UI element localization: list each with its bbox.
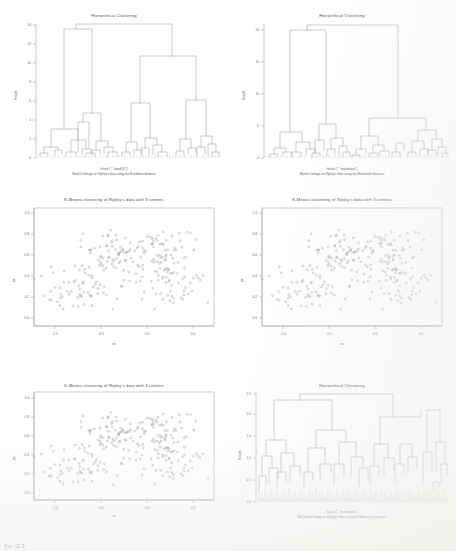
scatter-points (33, 229, 208, 310)
svg-text:8: 8 (29, 80, 31, 84)
svg-text:6: 6 (29, 99, 31, 103)
plot-caption-line2: McQuitty Linkage on Ripley's data using … (228, 515, 456, 519)
svg-text:0.4: 0.4 (25, 453, 30, 457)
svg-text:1.0: 1.0 (247, 456, 252, 460)
svg-text:15: 15 (255, 60, 259, 64)
svg-text:-0.5: -0.5 (98, 332, 104, 336)
scatter-points (261, 229, 436, 310)
svg-text:0.0: 0.0 (25, 316, 30, 320)
panel-kmeans-4: K-Means clustering of Ripley's data with… (0, 372, 228, 537)
dendrogram-leaves (266, 155, 446, 158)
svg-text:0.5: 0.5 (191, 332, 196, 336)
svg-text:0.5: 0.5 (247, 478, 252, 482)
svg-text:12: 12 (27, 42, 31, 46)
svg-text:0.8: 0.8 (25, 232, 30, 236)
plot-grid: Hierarchical Clustering Height 0 2 4 6 8… (0, 0, 456, 551)
dendrogram-tree (270, 25, 448, 157)
svg-text:10: 10 (27, 61, 31, 65)
y-axis: 0.0 0.2 0.4 0.6 0.8 1.0 (25, 392, 34, 500)
plot-caption-line2: Ward's Linkage on Ripley's data using th… (0, 172, 228, 176)
svg-text:-1.0: -1.0 (52, 332, 58, 336)
svg-text:0.0: 0.0 (145, 506, 150, 510)
y-axis: 0.0 0.2 0.4 0.6 0.8 1.0 (253, 208, 262, 326)
svg-text:0.6: 0.6 (25, 434, 30, 438)
svg-text:14: 14 (27, 23, 31, 27)
svg-text:4: 4 (29, 118, 31, 122)
x-axis: -1.0 -0.5 0.0 0.5 (34, 326, 214, 336)
svg-text:0: 0 (29, 156, 31, 160)
scatter-kmeans3-manhattan-svg: -1.0 -0.5 0.0 0.5 0.0 0.2 0.4 0.6 0.8 1.… (228, 186, 456, 372)
y-axis: 0.0 0.2 0.4 0.6 0.8 1.0 (25, 208, 34, 326)
svg-text:0.0: 0.0 (145, 332, 150, 336)
svg-text:0: 0 (257, 156, 259, 160)
svg-text:0.8: 0.8 (25, 415, 30, 419)
panel-kmeans-3-manhattan: K-Means clustering of Ripley's data with… (228, 186, 456, 372)
dendrogram-leaves (38, 155, 218, 158)
panel-kmeans-3-euclidean: K-Means clustering of Ripley's data with… (0, 186, 228, 372)
svg-text:1.5: 1.5 (247, 434, 252, 438)
svg-text:-1.0: -1.0 (52, 506, 58, 510)
svg-text:2.5: 2.5 (247, 392, 252, 396)
svg-text:0.2: 0.2 (25, 472, 30, 476)
svg-text:0.0: 0.0 (373, 332, 378, 336)
svg-text:0.6: 0.6 (253, 253, 258, 257)
svg-text:5: 5 (257, 124, 259, 128)
svg-text:2: 2 (29, 137, 31, 141)
svg-text:10: 10 (255, 92, 259, 96)
svg-text:0.4: 0.4 (25, 274, 30, 278)
dendrogram-midlevel (259, 488, 447, 502)
dendrogram-tree (40, 24, 219, 157)
x-axis: -1.0 -0.5 0.0 0.5 (262, 326, 442, 336)
svg-text:0.2: 0.2 (253, 295, 258, 299)
y-axis: 0 5 10 15 20 (255, 24, 264, 160)
svg-text:0.0: 0.0 (247, 500, 252, 504)
panel-dendro-manhattan: Hierarchical Clustering Height 0 5 10 15… (228, 0, 456, 186)
x-axis: -1.0 -0.5 0.0 0.5 (34, 500, 214, 510)
dendrogram-euclidean-svg: 0 2 4 6 8 10 12 14 (0, 0, 228, 186)
y-axis: 0.0 0.5 1.0 1.5 2.0 2.5 (247, 392, 256, 504)
svg-text:1.0: 1.0 (253, 211, 258, 215)
svg-text:0.5: 0.5 (191, 506, 196, 510)
dendrogram-tree (259, 394, 447, 490)
svg-text:-0.5: -0.5 (326, 332, 332, 336)
plot-caption-line2: Ward's Linkage on Ripley's data using th… (228, 172, 456, 176)
scatter-points (33, 412, 208, 486)
svg-text:0.8: 0.8 (253, 232, 258, 236)
svg-text:0.2: 0.2 (25, 295, 30, 299)
panel-dendro-mcquitty: Hierarchical Clustering Height 0.0 0.5 1… (228, 372, 456, 537)
svg-text:1.0: 1.0 (25, 211, 30, 215)
scatter-kmeans3-euclidean-svg: -1.0 -0.5 0.0 0.5 0.0 0.2 0.4 0.6 0.8 1.… (0, 186, 228, 372)
svg-text:0.6: 0.6 (25, 253, 30, 257)
scatter-kmeans4-svg: -1.0 -0.5 0.0 0.5 0.0 0.2 0.4 0.6 0.8 1.… (0, 372, 228, 537)
svg-text:2.0: 2.0 (247, 412, 252, 416)
svg-text:-0.5: -0.5 (98, 506, 104, 510)
svg-text:0.0: 0.0 (253, 316, 258, 320)
svg-text:0.4: 0.4 (253, 274, 258, 278)
y-axis: 0 2 4 6 8 10 12 14 (27, 23, 36, 160)
svg-text:0.5: 0.5 (419, 332, 424, 336)
figure-caption: Fig. 11.5 (4, 543, 25, 549)
svg-text:0.0: 0.0 (25, 491, 30, 495)
svg-text:-1.0: -1.0 (280, 332, 286, 336)
panel-dendro-euclidean: Hierarchical Clustering Height 0 2 4 6 8… (0, 0, 228, 186)
svg-text:1.0: 1.0 (25, 396, 30, 400)
svg-text:20: 20 (255, 28, 259, 32)
dendrogram-manhattan-svg: 0 5 10 15 20 (228, 0, 456, 186)
